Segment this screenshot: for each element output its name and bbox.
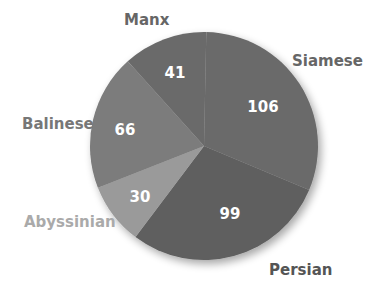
label-balinese: Balinese (22, 115, 94, 133)
label-persian: Persian (269, 261, 332, 279)
pie-chart (0, 0, 374, 297)
label-abyssinian: Abyssinian (24, 213, 116, 231)
label-manx: Manx (124, 11, 169, 29)
value-siamese: 106 (247, 98, 278, 116)
label-siamese: Siamese (292, 52, 363, 70)
value-abyssinian: 30 (130, 188, 151, 206)
value-balinese: 66 (115, 121, 136, 139)
value-persian: 99 (220, 205, 241, 223)
value-manx: 41 (165, 64, 186, 82)
